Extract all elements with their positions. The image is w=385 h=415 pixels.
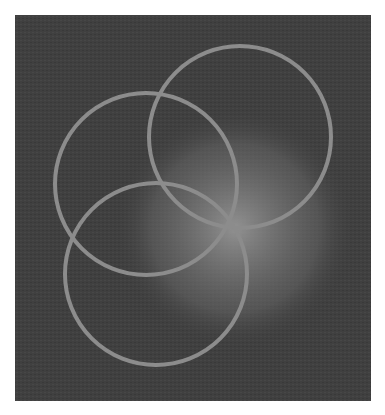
- figure-panel: [15, 15, 371, 401]
- three-rings-and-glowing-disc-illustration: [15, 15, 371, 401]
